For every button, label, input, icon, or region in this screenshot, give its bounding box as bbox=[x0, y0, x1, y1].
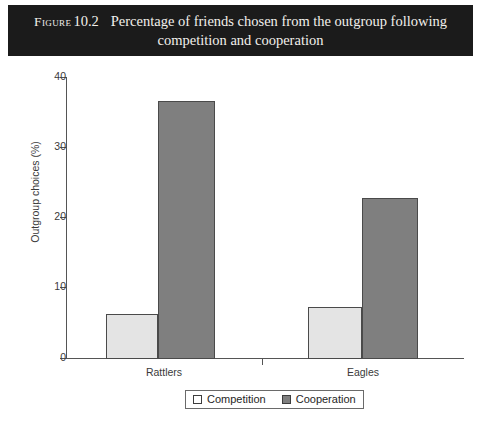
y-tick-label-40: 40 bbox=[18, 70, 66, 82]
figure-title-banner: Figure10.2Percentage of friends chosen f… bbox=[8, 5, 473, 56]
legend-swatch-competition-icon bbox=[193, 395, 202, 404]
legend-swatch-cooperation-icon bbox=[282, 395, 291, 404]
legend-label-competition: Competition bbox=[207, 393, 266, 405]
y-axis-line bbox=[66, 77, 67, 359]
legend-label-cooperation: Cooperation bbox=[296, 393, 356, 405]
x-category-label-eagles: Eagles bbox=[323, 366, 403, 378]
y-tick-label-0: 0 bbox=[18, 351, 66, 363]
chart-axes: Outgroup choices (%) 0 10 20 30 40 bbox=[8, 56, 473, 421]
y-axis-title: Outgroup choices (%) bbox=[29, 92, 41, 292]
x-category-label-rattlers: Rattlers bbox=[124, 366, 204, 378]
y-tick-label-10: 10 bbox=[18, 280, 66, 292]
figure-title-inner: Figure10.2Percentage of friends chosen f… bbox=[22, 12, 459, 50]
figure-title-text: Percentage of friends chosen from the ou… bbox=[111, 13, 447, 48]
bar-eagles-competition bbox=[308, 307, 362, 359]
x-tick-separator bbox=[262, 359, 263, 365]
figure-number: 10.2 bbox=[73, 13, 98, 29]
bar-rattlers-competition bbox=[106, 314, 158, 359]
bar-eagles-cooperation bbox=[362, 198, 418, 359]
y-tick-label-30: 30 bbox=[18, 140, 66, 152]
figure-label: Figure bbox=[34, 14, 71, 29]
chart-legend: Competition Cooperation bbox=[185, 390, 364, 409]
chart-plot-region: Outgroup choices (%) 0 10 20 30 40 bbox=[8, 56, 473, 421]
legend-item-cooperation: Cooperation bbox=[282, 393, 356, 405]
y-tick-label-20: 20 bbox=[18, 210, 66, 222]
bar-rattlers-cooperation bbox=[158, 101, 215, 359]
legend-item-competition: Competition bbox=[193, 393, 266, 405]
